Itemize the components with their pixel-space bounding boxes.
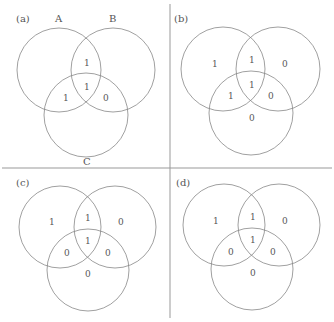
region-abc: 1 [84,82,90,92]
region-ab: 1 [84,58,90,68]
region-c-only: 0 [85,269,91,279]
region-abc: 1 [250,235,256,245]
region-ab: 1 [249,55,255,65]
set-label-a: A [54,13,63,24]
panel-label: (c) [16,177,30,188]
panel-b [181,27,320,155]
region-abc: 1 [249,80,255,90]
region-ab: 1 [85,213,91,223]
panel-d-text: (d) 1 1 0 1 0 0 0 [176,177,288,278]
region-ab: 1 [250,212,256,222]
set-label-b: B [109,13,116,24]
region-bc: 0 [268,91,274,101]
region-b-only: 0 [118,217,124,227]
region-b-only: 0 [282,216,288,226]
panel-a [17,28,155,157]
region-a-only: 1 [49,217,55,227]
region-ac: 0 [228,247,234,257]
region-c-only: 0 [249,113,255,123]
venn-diagram-grid: (a) A B C 1 1 1 0 (b) 1 1 0 1 1 0 0 (c) … [0,0,334,322]
panel-label: (a) [16,13,30,24]
region-abc: 1 [85,236,91,246]
region-a-only: 1 [213,216,219,226]
region-ac: 1 [63,93,69,103]
panel-c-text: (c) 1 1 0 1 0 0 0 [16,177,124,279]
region-c-only: 0 [250,268,256,278]
region-a-only: 1 [212,59,218,69]
panel-d [183,184,320,310]
set-label-c: C [83,156,91,167]
panel-a-text: (a) A B C 1 1 1 0 [16,13,116,167]
panel-label: (d) [176,177,190,188]
region-b-only: 0 [282,59,288,69]
region-bc: 0 [270,247,276,257]
region-bc: 0 [105,248,111,258]
region-ac: 1 [228,91,234,101]
region-ac: 0 [64,248,70,258]
region-bc: 0 [103,93,109,103]
panel-b-text: (b) 1 1 0 1 1 0 0 [174,13,288,123]
panel-label: (b) [174,13,188,24]
panel-c [19,186,156,311]
